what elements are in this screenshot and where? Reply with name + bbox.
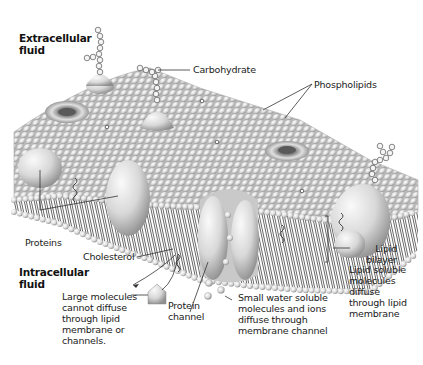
carbohydrate-unit xyxy=(97,57,103,63)
carbohydrate-unit xyxy=(137,65,143,71)
phospholipids-label: Phospholipids xyxy=(314,79,377,90)
carbohydrate-unit xyxy=(96,51,102,57)
phospholipid-head xyxy=(34,195,40,201)
membrane-diagram: Extracellular fluid Intracellular fluid … xyxy=(0,0,423,365)
phospholipid-head xyxy=(176,203,182,209)
phospholipid-head xyxy=(259,209,265,215)
phospholipid-head xyxy=(316,216,322,222)
protein-channel-label: Protein channel xyxy=(168,300,204,322)
carbohydrate-unit xyxy=(96,63,102,69)
carbohydrate-unit xyxy=(149,69,155,75)
surface-pore xyxy=(215,140,219,144)
ion-in-channel xyxy=(223,259,229,265)
carbohydrate-unit xyxy=(154,97,160,103)
phospholipid-head xyxy=(241,282,247,288)
phospholipid-head xyxy=(182,204,188,210)
phospholipid-head xyxy=(276,211,282,217)
phospholipid-head xyxy=(23,196,29,202)
ion-in-channel xyxy=(227,235,233,241)
ion-in-channel xyxy=(225,212,231,218)
phospholipid-head xyxy=(272,285,278,291)
phospholipid-head xyxy=(97,239,103,245)
phospholipid-head xyxy=(28,196,34,202)
phospholipid-head xyxy=(28,214,34,220)
phospholipid-head xyxy=(338,288,344,294)
phospholipid-head xyxy=(108,243,114,249)
phospholipid-head xyxy=(51,194,57,200)
carbohydrate-unit xyxy=(97,45,103,51)
phospholipid-head xyxy=(392,214,398,220)
glycoprotein-dome-top xyxy=(86,74,114,86)
carbohydrate-unit xyxy=(153,79,159,85)
carbohydrate-unit xyxy=(377,143,383,149)
phospholipid-head xyxy=(153,202,159,208)
phospholipid-head xyxy=(46,218,52,224)
phospholipid-head xyxy=(398,213,404,219)
carbohydrate-unit xyxy=(377,157,383,163)
phospholipid-head xyxy=(34,215,40,221)
phospholipid-head xyxy=(282,212,288,218)
carbohydrate-unit xyxy=(143,67,149,73)
phospholipid-head xyxy=(405,257,411,263)
protein-channel-half-right xyxy=(231,200,259,280)
phospholipid-head xyxy=(74,229,80,235)
phospholipid-head xyxy=(46,194,52,200)
phospholipid-head xyxy=(11,197,17,203)
carbohydrate-unit xyxy=(369,171,375,177)
phospholipid-head xyxy=(86,234,92,240)
cholesterol-label: Cholesterol xyxy=(83,251,134,262)
carbohydrate-unit xyxy=(370,165,376,171)
phospholipid-head xyxy=(57,193,63,199)
phospholipid-head xyxy=(17,211,23,217)
phospholipid-head xyxy=(153,259,159,265)
carbohydrate-unit xyxy=(389,144,395,150)
phospholipid-head xyxy=(63,194,69,200)
phospholipid-head xyxy=(40,217,46,223)
donut-hole xyxy=(58,108,76,116)
carbohydrate-unit xyxy=(84,55,90,61)
carbohydrate-unit xyxy=(154,85,160,91)
phospholipid-head xyxy=(403,212,409,218)
phospholipid-head xyxy=(165,203,171,209)
phospholipid-head xyxy=(11,209,17,215)
phospholipid-head xyxy=(278,286,284,292)
phospholipid-head xyxy=(171,203,177,209)
phospholipid-head xyxy=(266,285,272,291)
phospholipid-head xyxy=(40,195,46,201)
surface-pore xyxy=(300,189,304,193)
carbohydrate-unit xyxy=(97,69,103,75)
phospholipid-head xyxy=(332,288,338,294)
phospholipid-head xyxy=(260,284,266,290)
carbohydrate-unit xyxy=(153,91,159,97)
carbohydrate-unit xyxy=(383,155,389,161)
phospholipid-head xyxy=(180,270,186,276)
phospholipid-head xyxy=(91,236,97,242)
phospholipid-head xyxy=(68,226,74,232)
intracellular-fluid-label: Intracellular fluid xyxy=(19,267,89,290)
phospholipid-head xyxy=(264,209,270,215)
phospholipid-head xyxy=(247,283,253,289)
carbohydrate-label: Carbohydrate xyxy=(193,64,256,75)
phospholipid-head xyxy=(288,213,294,219)
lipid-soluble-label: Lipid soluble molecules diffuse through … xyxy=(349,264,407,319)
donut-hole xyxy=(278,146,296,154)
surface-pore xyxy=(200,99,204,103)
phospholipid-head xyxy=(322,217,328,223)
phospholipid-head xyxy=(253,284,259,290)
phospholipid-head xyxy=(293,213,299,219)
phospholipid-head xyxy=(188,204,194,210)
large-molecules-label: Large molecules cannot diffuse through l… xyxy=(62,291,137,346)
proteins-label: Proteins xyxy=(25,237,62,248)
surface-pore xyxy=(105,125,109,129)
phospholipid-head xyxy=(194,204,200,210)
carbohydrate-unit xyxy=(97,33,103,39)
phospholipid-head xyxy=(311,216,317,222)
phospholipid-head xyxy=(186,273,192,279)
phospholipid-head xyxy=(57,221,63,227)
carbohydrate-unit xyxy=(380,149,386,155)
phospholipid-head xyxy=(17,197,23,203)
phospholipid-head xyxy=(23,212,29,218)
phospholipid-head xyxy=(51,220,57,226)
phospholipid-head xyxy=(409,210,415,216)
phospholipid-head xyxy=(235,282,241,288)
